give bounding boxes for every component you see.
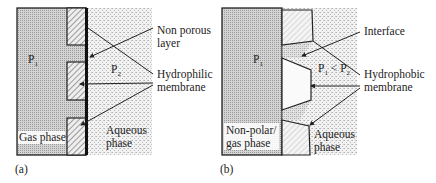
aqueous-label-b-2: phase [314,141,340,154]
non-porous-label-1: Non porous [157,24,212,37]
hydrophilic-label-1: Hydrophilic [157,68,213,81]
panel-b: P1 P1 < P2 Non-polar/ gas phase Aqueous … [220,8,425,176]
nonpolar-label-2: gas phase [226,137,270,150]
panel-a-tag: (a) [15,163,28,176]
hydrophobic-block-1 [282,10,313,45]
panel-b-tag: (b) [220,163,234,176]
gas-phase-label: Gas phase [19,131,66,144]
aqueous-label-b-1: Aqueous [314,128,355,141]
hydrophilic-block-2 [67,62,86,100]
hydrophobic-block-3 [282,120,310,155]
hydrophilic-block-1 [67,8,86,45]
panel-a: P1 P2 Gas phase Aqueous phase Non porous… [15,8,213,176]
membrane-diagram: P1 P2 Gas phase Aqueous phase Non porous… [0,0,436,183]
hydrophobic-label-2: membrane [364,81,413,93]
hydrophobic-label-1: Hydrophobic [364,68,425,81]
nonpolar-label-1: Non-polar/ [226,124,277,137]
hydrophilic-label-2: membrane [157,81,206,93]
non-porous-label-2: layer [157,37,180,50]
aqueous-label-a-2: phase [106,137,132,150]
interface-label: Interface [364,25,405,37]
aqueous-label-a-1: Aqueous [106,124,147,137]
